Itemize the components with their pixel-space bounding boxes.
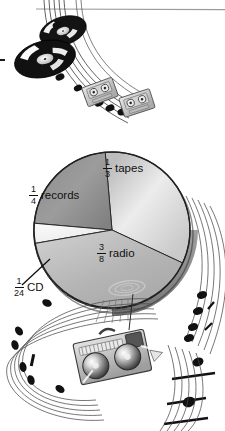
pie-label-tapes: 1 3 tapes bbox=[103, 158, 143, 179]
fraction-denominator: 3 bbox=[105, 169, 110, 179]
illustration-canvas: 1 3 tapes 1 4 records 3 8 radio 1 24 CD bbox=[0, 0, 225, 431]
fraction-denominator: 8 bbox=[99, 254, 104, 264]
fraction-tapes: 1 3 bbox=[103, 158, 112, 179]
pie-label-records: 1 4 records bbox=[29, 185, 79, 206]
cassette-tape-upper bbox=[82, 77, 119, 107]
fraction-cd: 1 24 bbox=[14, 277, 24, 298]
top-rule bbox=[36, 9, 225, 10]
fraction-radio: 3 8 bbox=[97, 243, 106, 264]
pie-label-radio: 3 8 radio bbox=[97, 243, 135, 264]
fraction-numerator: 1 bbox=[105, 158, 110, 168]
pie-label-radio-text: radio bbox=[109, 248, 135, 260]
fraction-denominator: 24 bbox=[14, 288, 24, 298]
fraction-numerator: 1 bbox=[31, 185, 36, 195]
music-formats-illustration bbox=[0, 0, 225, 431]
pie-label-tapes-text: tapes bbox=[115, 163, 143, 175]
fraction-numerator: 1 bbox=[17, 277, 22, 287]
fraction-denominator: 4 bbox=[31, 196, 36, 206]
left-dash-mark bbox=[0, 59, 5, 61]
boombox-radio bbox=[71, 319, 165, 385]
pie-label-cd: 1 24 CD bbox=[14, 277, 44, 298]
fraction-numerator: 3 bbox=[99, 243, 104, 253]
lower-right-staff-lines bbox=[160, 345, 203, 431]
pie-label-cd-text: CD bbox=[27, 282, 44, 294]
cassette-tape-lower bbox=[119, 89, 156, 118]
pie-label-records-text: records bbox=[41, 190, 79, 202]
fraction-records: 1 4 bbox=[29, 185, 38, 206]
